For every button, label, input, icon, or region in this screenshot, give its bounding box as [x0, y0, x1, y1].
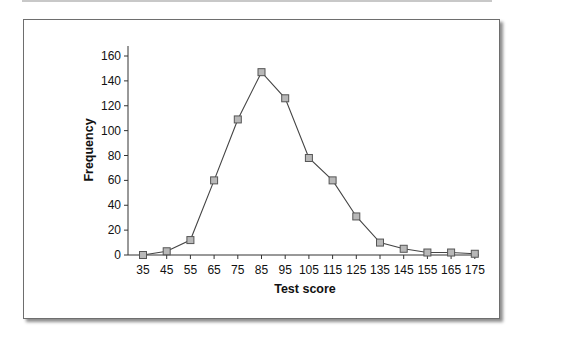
y-tick-label: 120 [101, 99, 121, 113]
x-tick-label: 45 [160, 263, 174, 277]
data-point-marker [305, 154, 312, 161]
data-point-marker [211, 177, 218, 184]
x-tick-label: 165 [441, 263, 461, 277]
x-tick-label: 55 [184, 263, 198, 277]
y-tick-label: 20 [108, 223, 122, 237]
data-point-marker [140, 252, 147, 259]
data-point-marker [329, 177, 336, 184]
x-tick-label: 65 [207, 263, 221, 277]
x-tick-label: 105 [299, 263, 319, 277]
data-point-marker [400, 245, 407, 252]
x-tick-label: 135 [370, 263, 390, 277]
data-point-marker [163, 248, 170, 255]
x-tick-label: 155 [417, 263, 437, 277]
x-tick-label: 35 [136, 263, 150, 277]
y-tick-label: 0 [114, 248, 121, 262]
y-axis-title: Frequency [82, 118, 96, 181]
y-tick-label: 60 [108, 173, 122, 187]
x-tick-label: 85 [255, 263, 269, 277]
series-frequency [140, 69, 479, 259]
y-tick-label: 160 [101, 49, 121, 63]
data-point-marker [377, 239, 384, 246]
y-tick-label: 100 [101, 124, 121, 138]
data-point-marker [282, 95, 289, 102]
data-point-marker [187, 237, 194, 244]
y-axis: 020406080100120140160 [101, 46, 128, 262]
x-tick-label: 145 [394, 263, 414, 277]
x-tick-label: 95 [279, 263, 293, 277]
x-tick-label: 115 [323, 263, 342, 277]
y-tick-label: 40 [108, 198, 122, 212]
data-point-marker [471, 250, 478, 257]
line-chart: 020406080100120140160 354555657585951051… [0, 0, 571, 341]
data-point-marker [424, 249, 431, 256]
y-tick-label: 140 [101, 74, 121, 88]
x-tick-label: 175 [465, 263, 485, 277]
x-axis: 35455565758595105115125135145155165175 [128, 255, 485, 277]
x-tick-label: 75 [231, 263, 245, 277]
x-tick-label: 125 [346, 263, 366, 277]
x-axis-title: Test score [274, 282, 336, 296]
series-line [143, 72, 475, 255]
data-point-marker [448, 249, 455, 256]
data-point-marker [353, 213, 360, 220]
data-point-marker [234, 116, 241, 123]
y-tick-label: 80 [108, 149, 122, 163]
data-point-marker [258, 69, 265, 76]
